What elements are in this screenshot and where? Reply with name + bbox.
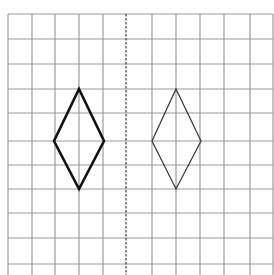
shapes-group xyxy=(54,89,201,189)
symmetry-grid-diagram xyxy=(0,0,274,275)
grid-lines xyxy=(8,14,273,275)
